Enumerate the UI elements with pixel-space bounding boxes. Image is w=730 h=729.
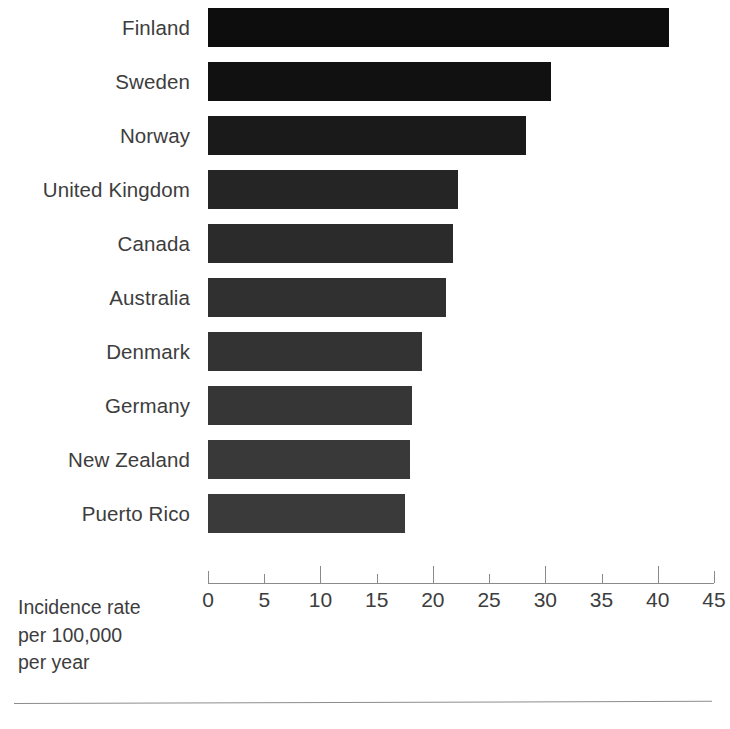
x-axis-tick-label: 40 xyxy=(628,588,688,612)
footer-divider xyxy=(14,701,712,704)
bar-track xyxy=(208,386,725,425)
bar-row: Puerto Rico xyxy=(0,494,725,533)
x-axis-tick xyxy=(208,571,209,583)
x-axis-tick xyxy=(320,566,321,583)
bar xyxy=(208,278,446,317)
bar-track xyxy=(208,116,725,155)
bar-row: United Kingdom xyxy=(0,170,725,209)
bar-track xyxy=(208,278,725,317)
axis-caption-line-2: per 100,000 xyxy=(18,622,203,650)
bar-row: Norway xyxy=(0,116,725,155)
bar-row: Canada xyxy=(0,224,725,263)
x-axis-tick xyxy=(264,574,265,583)
x-axis-tick-label: 5 xyxy=(234,588,294,612)
bar-category-label: Puerto Rico xyxy=(0,503,190,525)
bar xyxy=(208,386,412,425)
bar xyxy=(208,224,453,263)
plot-area: FinlandSwedenNorwayUnited KingdomCanadaA… xyxy=(0,0,725,560)
bar xyxy=(208,116,526,155)
bar-category-label: Finland xyxy=(0,17,190,39)
x-axis-tick-label: 45 xyxy=(684,588,730,612)
x-axis-tick-label: 15 xyxy=(347,588,407,612)
x-axis-tick xyxy=(377,574,378,583)
bar-track xyxy=(208,8,725,47)
x-axis-line xyxy=(208,583,714,584)
bar-row: Germany xyxy=(0,386,725,425)
bar xyxy=(208,8,669,47)
bar-category-label: United Kingdom xyxy=(0,179,190,201)
bar xyxy=(208,62,551,101)
bar-track xyxy=(208,494,725,533)
bar-row: Denmark xyxy=(0,332,725,371)
bar-track xyxy=(208,332,725,371)
x-axis-tick xyxy=(545,566,546,583)
x-axis-tick xyxy=(433,566,434,583)
x-axis-tick-label: 30 xyxy=(515,588,575,612)
bar xyxy=(208,494,405,533)
bar-category-label: Norway xyxy=(0,125,190,147)
x-axis-tick xyxy=(658,566,659,583)
axis-caption-line-3: per year xyxy=(18,649,203,677)
bar-category-label: Sweden xyxy=(0,71,190,93)
x-axis-tick-label: 10 xyxy=(290,588,350,612)
bar-category-label: Canada xyxy=(0,233,190,255)
bar-category-label: Denmark xyxy=(0,341,190,363)
bar-category-label: Germany xyxy=(0,395,190,417)
bar-category-label: New Zealand xyxy=(0,449,190,471)
bar-row: Finland xyxy=(0,8,725,47)
axis-caption-line-1: Incidence rate xyxy=(18,594,203,622)
bar-category-label: Australia xyxy=(0,287,190,309)
x-axis-tick xyxy=(714,571,715,583)
x-axis-caption: Incidence rate per 100,000 per year xyxy=(18,594,203,677)
bar xyxy=(208,170,458,209)
bar xyxy=(208,440,410,479)
bar-track xyxy=(208,440,725,479)
bar xyxy=(208,332,422,371)
bar-row: Australia xyxy=(0,278,725,317)
x-axis-tick xyxy=(489,574,490,583)
bar-track xyxy=(208,224,725,263)
x-axis-tick-label: 35 xyxy=(572,588,632,612)
bar-row: New Zealand xyxy=(0,440,725,479)
bar-row: Sweden xyxy=(0,62,725,101)
bar-track xyxy=(208,170,725,209)
x-axis-tick-label: 20 xyxy=(403,588,463,612)
bar-track xyxy=(208,62,725,101)
x-axis-tick-label: 25 xyxy=(459,588,519,612)
x-axis-tick xyxy=(602,574,603,583)
